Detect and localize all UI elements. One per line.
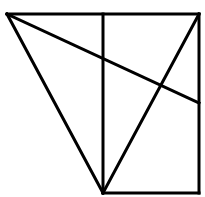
right-slant bbox=[103, 14, 199, 193]
left-slant bbox=[7, 14, 103, 193]
geometry-diagram bbox=[0, 0, 205, 197]
